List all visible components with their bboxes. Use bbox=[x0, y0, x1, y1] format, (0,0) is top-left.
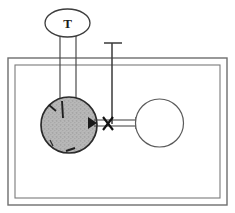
riser-tick bbox=[62, 101, 63, 118]
empty-vessel bbox=[136, 99, 184, 147]
tank-ellipse: T bbox=[45, 9, 90, 37]
enclosure-outer-rect bbox=[8, 58, 227, 205]
tank-label: T bbox=[63, 16, 72, 31]
enclosure-frame bbox=[8, 58, 227, 205]
crossover-duct bbox=[94, 117, 137, 129]
empty-vessel-body bbox=[136, 99, 184, 147]
schematic-svg: T bbox=[0, 0, 235, 213]
diagram-canvas: T bbox=[0, 0, 235, 213]
standpipe bbox=[104, 43, 122, 124]
